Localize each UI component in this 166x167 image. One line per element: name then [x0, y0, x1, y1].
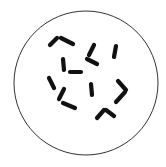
chromosome-c6a: [59, 89, 64, 99]
chromosome-c4a: [63, 59, 64, 70]
chromosome-c1a: [50, 38, 57, 45]
chromosome-c3: [114, 46, 116, 57]
field-of-view-circle: [14, 11, 158, 155]
chromosome-group: [49, 38, 126, 118]
chromosome-c6b: [63, 103, 75, 108]
chromosome-c2b: [87, 59, 97, 64]
chromosome-c1b: [61, 38, 73, 44]
chromosome-c5: [49, 78, 54, 88]
chromosome-c9b: [106, 110, 114, 116]
chromosome-c8a: [118, 81, 126, 90]
chromosome-c8b: [116, 92, 125, 102]
chromosome-c9a: [97, 110, 104, 118]
microscope-figure: [0, 0, 166, 167]
chromosome-c7: [91, 84, 92, 95]
chromosome-field-diagram: [0, 0, 166, 167]
chromosome-c2a: [89, 45, 94, 55]
